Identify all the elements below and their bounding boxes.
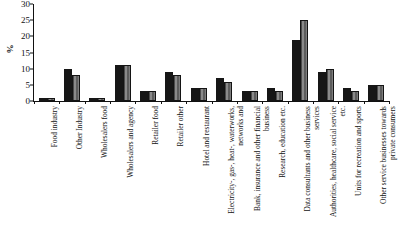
bar-series-2 [376, 85, 384, 101]
x-category-label: Other Industry [76, 106, 88, 226]
x-category-label-text: Data consultants and other business serv… [304, 106, 321, 226]
x-tick-mark [288, 101, 289, 104]
x-tick-mark [85, 101, 86, 104]
bar-group [212, 4, 237, 101]
bar-group [237, 4, 262, 101]
bar-group [338, 4, 363, 101]
bar-series-1 [64, 69, 72, 101]
bar-series-1 [318, 72, 326, 101]
y-tick-label: 0 [8, 97, 30, 106]
x-axis-category-labels: Food industryOther IndustryWholesalers f… [34, 106, 389, 228]
bar-series-2 [351, 91, 359, 101]
bar-series-1 [39, 98, 47, 101]
x-category-label-text: Authorities, healthcare, social service … [330, 106, 347, 226]
y-tick-label: 20 [8, 32, 30, 41]
x-tick-mark [237, 101, 238, 104]
x-category-label-text: Wholesalers food [101, 106, 110, 226]
x-tick-mark [364, 101, 365, 104]
bar-series-2 [326, 69, 334, 101]
bar-group [364, 4, 389, 101]
bar-group [110, 4, 135, 101]
bar-series-1 [368, 85, 376, 101]
x-tick-mark [313, 101, 314, 104]
bar-series-1 [191, 88, 199, 101]
x-category-label: Other service businesses towards private… [380, 106, 392, 226]
y-tick-label: 5 [8, 81, 30, 90]
bar-series-1 [267, 88, 275, 101]
bar-series-1 [292, 40, 300, 101]
x-tick-mark [161, 101, 162, 104]
x-category-label: Retailer other [177, 106, 189, 226]
x-tick-mark [186, 101, 187, 104]
bar-series-2 [72, 75, 80, 101]
x-category-label-text: Wholesalers and agency [127, 106, 136, 226]
bar-group [59, 4, 84, 101]
bar-series-2 [97, 98, 105, 101]
bar-series-2 [275, 91, 283, 101]
x-category-label-text: Retailer other [177, 106, 186, 226]
bar-series-1 [165, 72, 173, 101]
x-category-label-text: Bank, insurance and other financial busi… [254, 106, 271, 226]
bar-series-1 [216, 78, 224, 101]
bar-series-1 [89, 98, 97, 101]
x-tick-mark [212, 101, 213, 104]
bar-group [34, 4, 59, 101]
x-category-label-text: Units for recreation and sports [355, 106, 364, 226]
bar-group [288, 4, 313, 101]
x-category-label-text: Other service businesses towards private… [380, 106, 397, 226]
y-tick-label: 15 [8, 49, 30, 58]
bar-series-2 [47, 98, 55, 101]
bar-group [313, 4, 338, 101]
x-tick-mark [59, 101, 60, 104]
bar-series-2 [199, 88, 207, 101]
bar-series-2 [224, 82, 232, 101]
x-category-label: Hotel and restaurant [203, 106, 215, 226]
x-category-label: Wholesalers and agency [127, 106, 139, 226]
x-tick-mark [34, 101, 35, 104]
bar-series-2 [250, 91, 258, 101]
bar-series-1 [242, 91, 250, 101]
bar-group [186, 4, 211, 101]
bar-group [262, 4, 287, 101]
x-category-label-text: Retailer food [152, 106, 161, 226]
x-tick-mark [262, 101, 263, 104]
bar-group [161, 4, 186, 101]
x-category-label: Research, education etc. [279, 106, 291, 226]
x-category-label: Wholesalers food [101, 106, 113, 226]
x-tick-mark [135, 101, 136, 104]
y-tick-label: 10 [8, 65, 30, 74]
x-category-label: Bank, insurance and other financial busi… [254, 106, 266, 226]
x-tick-mark [338, 101, 339, 104]
bar-series-2 [123, 65, 131, 101]
x-category-label-text: Other Industry [76, 106, 85, 226]
bar-series-2 [173, 75, 181, 101]
x-category-label: Food industry [51, 106, 63, 226]
x-category-label: Electricity-, gas-, heat-, waterworks, n… [228, 106, 240, 226]
x-tick-mark [110, 101, 111, 104]
x-category-label-text: Food industry [51, 106, 60, 226]
plot-area [34, 4, 389, 101]
y-tick-label: 25 [8, 16, 30, 25]
x-category-label-text: Electricity-, gas-, heat-, waterworks, n… [228, 106, 245, 226]
y-tick-label: 30 [8, 0, 30, 9]
bar-group [135, 4, 160, 101]
x-category-label: Authorities, healthcare, social service … [330, 106, 342, 226]
x-category-label-text: Research, education etc. [279, 106, 288, 226]
x-category-label: Retailer food [152, 106, 164, 226]
bar-series-2 [300, 20, 308, 101]
bar-group [85, 4, 110, 101]
y-axis-ticks: 051015202530 [0, 0, 30, 101]
bar-series-1 [140, 91, 148, 101]
x-category-label: Data consultants and other business serv… [304, 106, 316, 226]
x-tick-mark [389, 101, 390, 104]
bar-series-1 [115, 65, 123, 101]
x-category-label: Units for recreation and sports [355, 106, 367, 226]
bar-series-1 [343, 88, 351, 101]
x-category-label-text: Hotel and restaurant [203, 106, 212, 226]
bar-series-2 [148, 91, 156, 101]
